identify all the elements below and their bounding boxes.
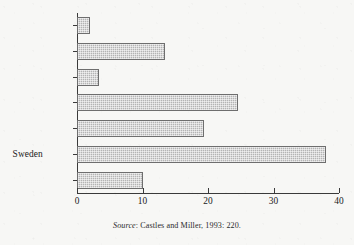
x-axis-label: 20 [203,196,212,206]
x-axis-tick [208,188,209,193]
source-citation: Castles and Miller, 1993: 220. [140,221,241,230]
bar-sweden[interactable] [77,146,326,163]
source-note: Source: Castles and Miller, 1993: 220. [0,221,354,230]
bar-row: Britain [77,90,238,116]
figure-container: Belgium France Germany Britain Netherlan… [0,0,354,245]
bar-row: France [77,39,165,65]
source-label: Source [113,221,136,230]
y-axis-tick [73,25,77,26]
x-axis-label: 10 [138,196,147,206]
bar-row: Switzerland [77,167,143,193]
source-separator: : [136,221,138,230]
x-axis-label: 0 [75,196,80,206]
bar-row: Germany [77,64,99,90]
bar-row: Belgium [77,13,90,39]
y-axis-tick [73,51,77,52]
x-axis-tick [274,188,275,193]
bar-row: Sweden [77,142,326,168]
x-axis-label: 30 [269,196,278,206]
x-axis-label: 40 [334,196,343,206]
bar-britain[interactable] [77,94,238,111]
y-axis-tick [73,102,77,103]
y-axis-tick [73,154,77,155]
x-axis-tick [143,188,144,193]
bar-netherlands[interactable] [77,120,204,137]
x-axis-line [77,193,339,194]
bar-switzerland[interactable] [77,172,143,189]
bar-germany[interactable] [77,69,99,86]
y-axis-tick [73,128,77,129]
bar-france[interactable] [77,43,165,60]
x-axis-tick [77,188,78,193]
bar-belgium[interactable] [77,17,90,34]
plot-area: Belgium France Germany Britain Netherlan… [77,13,339,193]
x-axis-tick [339,188,340,193]
bar-row: Netherlands [77,116,204,142]
category-label-sweden: Sweden [13,142,43,168]
y-axis-tick [73,77,77,78]
y-axis-tick [73,180,77,181]
